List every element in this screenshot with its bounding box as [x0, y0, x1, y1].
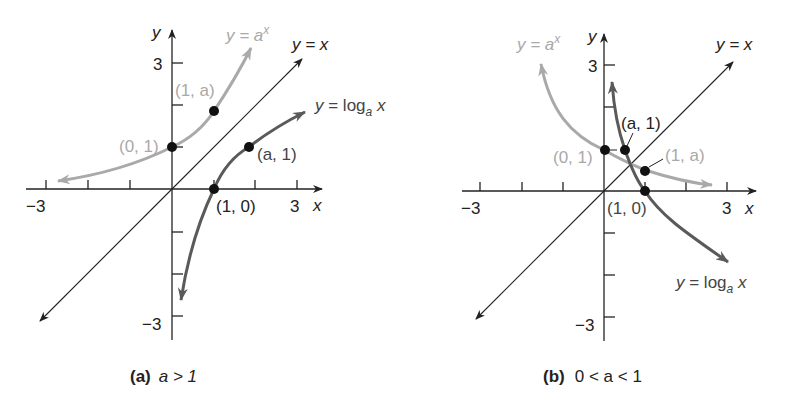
log-curve-label: y = loga x: [675, 273, 747, 296]
identity-line-label: y = x: [291, 35, 329, 54]
point-label-0-1: (0, 1): [553, 148, 593, 167]
x-axis-label: x: [744, 199, 754, 218]
panel-a: y x 3 −3 −3 3 y = ax y = x y = loga x (1…: [26, 23, 386, 386]
point-label-0-1: (0, 1): [119, 137, 159, 156]
panel-b: y x 3 −3 −3 3 y = ax y = x y = loga x (a…: [461, 27, 756, 386]
point-label-1-0: (1, 0): [607, 199, 647, 218]
point-label-a-1: (a, 1): [621, 114, 661, 133]
point-1-a: [209, 106, 219, 116]
identity-line-lower: [40, 189, 172, 321]
point-label-1-a: (1, a): [665, 146, 705, 165]
point-0-1: [167, 142, 177, 152]
exp-curve-label: y = ax: [516, 32, 561, 54]
x-tick-min: −3: [26, 197, 45, 216]
point-a-1: [620, 145, 630, 155]
x-tick-max: 3: [722, 199, 731, 218]
log-curve-lower: [181, 189, 214, 300]
point-1-0: [209, 184, 219, 194]
y-axis-label: y: [587, 27, 598, 46]
point-1-a: [640, 166, 650, 176]
leader-line-a-1: [627, 133, 633, 146]
x-axis-label: x: [312, 196, 322, 215]
x-tick-min: −3: [461, 199, 480, 218]
identity-line-label: y = x: [715, 35, 753, 54]
y-tick-max: 3: [153, 55, 162, 74]
identity-line-lower: [476, 191, 604, 319]
exp-curve-label: y = ax: [225, 23, 270, 45]
caption-a: (a)a > 1: [130, 367, 197, 386]
leader-line-1-a: [649, 159, 663, 167]
y-tick-min: −3: [142, 315, 161, 334]
point-label-1-a: (1, a): [175, 81, 215, 100]
figure-canvas: y x 3 −3 −3 3 y = ax y = x y = loga x (1…: [0, 0, 798, 418]
point-1-0: [640, 186, 650, 196]
point-label-a-1: (a, 1): [257, 145, 297, 164]
point-label-1-0: (1, 0): [216, 197, 256, 216]
caption-b: (b)0 < a < 1: [543, 367, 642, 386]
y-axis-label: y: [151, 23, 162, 42]
exp-curve: [541, 64, 604, 150]
point-a-1: [244, 142, 254, 152]
log-curve-label: y = loga x: [314, 96, 386, 119]
x-tick-max: 3: [290, 197, 299, 216]
y-tick-min: −3: [575, 316, 594, 335]
point-0-1: [600, 145, 610, 155]
y-tick-max: 3: [588, 57, 597, 76]
